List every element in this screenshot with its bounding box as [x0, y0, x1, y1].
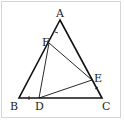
label-f: F [42, 36, 50, 49]
triangle-diagram: A B C D E F [0, 0, 124, 121]
label-e: E [94, 72, 102, 85]
label-c: C [102, 100, 110, 113]
triangle-abc [19, 20, 102, 98]
tick-mark-af [55, 32, 58, 33]
triangle-def [39, 43, 92, 98]
label-d: D [35, 100, 44, 113]
label-b: B [10, 100, 18, 113]
label-a: A [55, 7, 65, 20]
